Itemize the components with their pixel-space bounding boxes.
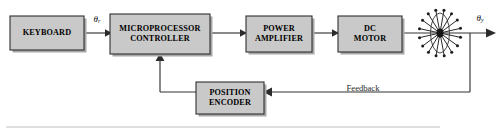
signal-output-label: θy bbox=[476, 13, 483, 24]
load-spoke-dot bbox=[450, 51, 453, 54]
block-label-line: MICROPROCESSOR bbox=[119, 24, 200, 33]
block-label-line: MOTOR bbox=[354, 34, 386, 43]
signal-input-label: θr bbox=[94, 14, 101, 25]
load-spoke-dot bbox=[427, 51, 430, 54]
load-spoke-dot bbox=[442, 9, 445, 12]
load-spoke-dot bbox=[418, 36, 421, 39]
block-label-line: CONTROLLER bbox=[130, 34, 190, 43]
block-diagram: KEYBOARDMICROPROCESSORCONTROLLERPOWERAMP… bbox=[0, 0, 504, 134]
block-label-line: POSITION bbox=[209, 88, 250, 97]
diagram-canvas: KEYBOARDMICROPROCESSORCONTROLLERPOWERAMP… bbox=[0, 0, 504, 134]
load-spoke-dot bbox=[421, 44, 424, 47]
block-label-line: KEYBOARD bbox=[23, 28, 72, 37]
feedback-label: Feedback bbox=[347, 83, 381, 93]
load-spoke-dot bbox=[418, 27, 421, 30]
block-layer: KEYBOARDMICROPROCESSORCONTROLLERPOWERAMP… bbox=[10, 14, 405, 117]
load-spoke-dot bbox=[421, 19, 424, 22]
load-spoke-dot bbox=[456, 19, 459, 22]
block-label-line: AMPLIFIER bbox=[255, 34, 303, 43]
block-keyboard[interactable]: KEYBOARD bbox=[10, 16, 87, 53]
load-spoke-dot bbox=[427, 12, 430, 15]
load-spoke-dot bbox=[459, 36, 462, 39]
block-label-line: DC bbox=[364, 24, 376, 33]
load-spoke-dot bbox=[450, 12, 453, 15]
load-spoke-dot bbox=[459, 27, 462, 30]
load-hub bbox=[437, 28, 444, 37]
arrowhead-output bbox=[486, 29, 496, 38]
block-position-encoder[interactable]: POSITIONENCODER bbox=[196, 82, 267, 117]
block-microprocessor-controller[interactable]: MICROPROCESSORCONTROLLER bbox=[110, 14, 213, 57]
load-spoke-dot bbox=[434, 9, 437, 12]
load-spoke-dot bbox=[456, 44, 459, 47]
load-spoke-dot bbox=[443, 54, 446, 57]
block-label-line: POWER bbox=[263, 24, 295, 33]
block-label-line: ENCODER bbox=[209, 98, 251, 107]
block-dc-motor[interactable]: DCMOTOR bbox=[338, 16, 405, 55]
load-spoke-dot bbox=[435, 54, 438, 57]
block-power-amplifier[interactable]: POWERAMPLIFIER bbox=[246, 16, 315, 55]
